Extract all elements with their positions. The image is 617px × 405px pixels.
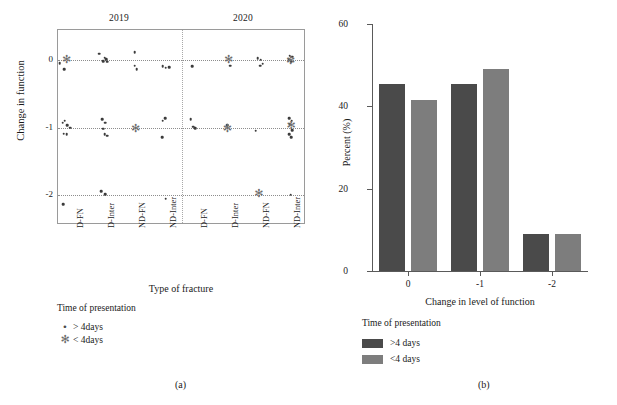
scatter-point-dot (100, 190, 103, 193)
scatter-point-dot (106, 60, 109, 63)
scatter-point-dot (101, 118, 104, 121)
bar-1-series-0 (451, 84, 477, 271)
scatter-point-dot (259, 64, 262, 67)
scatter-point-asterisk: ✻ (223, 123, 232, 132)
bar-0-series-1 (411, 100, 437, 271)
scatter-legend-item-0[interactable]: •> 4days (57, 320, 136, 333)
bar-y-tick-3: 60 (339, 19, 349, 29)
scatter-y-tick-1: -1 (46, 122, 54, 132)
bar-2-series-1 (555, 234, 581, 271)
scatter-point-dot (135, 68, 138, 71)
bar-y-tickmark-0 (367, 271, 372, 272)
scatter-x-tick-3: ND-Inter (169, 197, 178, 228)
scatter-x-tick-5: D-Inter (231, 203, 240, 228)
scatter-legend-label-1: < 4days (73, 335, 103, 345)
scatter-point-dot (102, 60, 105, 63)
panel-caption-a: (a) (175, 379, 186, 390)
bar-x-tick-1: -1 (476, 279, 484, 289)
scatter-year-divider (182, 30, 183, 223)
scatter-point-asterisk: ✻ (286, 56, 295, 65)
scatter-point-dot (63, 68, 66, 71)
scatter-point-asterisk: ✻ (62, 54, 71, 63)
scatter-legend-label-0: > 4days (73, 322, 103, 332)
bar-y-axis-title: Percent (%) (341, 73, 352, 213)
scatter-point-asterisk: ✻ (224, 54, 233, 63)
scatter-gridline-y-1 (58, 128, 304, 129)
scatter-point-dot (69, 126, 72, 129)
scatter-y-axis-ticks: 0-1-2 (28, 29, 53, 224)
scatter-point-dot (290, 136, 293, 139)
bar-y-tickmark-3 (367, 24, 372, 25)
bar-y-tick-0: 0 (343, 266, 348, 276)
bar-0-series-0 (379, 84, 405, 271)
bar-x-tickmark-2 (552, 271, 553, 276)
bar-2-series-0 (523, 234, 549, 271)
bar-x-tickmark-0 (408, 271, 409, 276)
scatter-point-dot (161, 136, 164, 139)
scatter-gridline-y-0 (58, 60, 304, 61)
bar-plot-area (372, 24, 588, 271)
scatter-point-asterisk: ✻ (287, 120, 296, 129)
bar-1-series-1 (483, 69, 509, 271)
scatter-point-asterisk: ✻ (254, 189, 263, 198)
bar-x-axis-title: Change in level of function (372, 296, 588, 307)
bar-legend-label-0: >4 days (390, 338, 420, 348)
group-label-2019: 2019 (109, 13, 129, 23)
scatter-x-tick-4: D-FN (200, 208, 209, 228)
bar-legend-item-1[interactable]: <4 days (362, 352, 441, 366)
scatter-y-tick-0: 0 (49, 54, 54, 64)
scatter-legend: Time of presentation •> 4days✻< 4days (57, 303, 136, 346)
bar-y-tickmark-1 (367, 189, 372, 190)
scatter-point-dot (106, 134, 109, 137)
bar-x-tick-2: -2 (548, 279, 556, 289)
scatter-x-axis-title: Type of fracture (57, 283, 305, 294)
scatter-legend-item-1[interactable]: ✻< 4days (57, 333, 136, 346)
bar-legend-title: Time of presentation (362, 318, 441, 328)
panel-caption-b: (b) (478, 379, 490, 390)
scatter-gridline-y-2 (58, 195, 304, 196)
scatter-y-axis-title: Change in function (15, 21, 26, 181)
scatter-point-dot (98, 52, 101, 55)
bar-legend-swatch-0 (362, 339, 383, 348)
asterisk-marker-icon: ✻ (57, 333, 73, 346)
dot-marker-icon: • (57, 322, 73, 332)
bar-legend-items: >4 days<4 days (362, 336, 441, 366)
scatter-point-dot (102, 128, 105, 131)
scatter-point-dot (194, 127, 197, 130)
bar-x-tick-0: 0 (406, 279, 411, 289)
scatter-x-tick-1: D-Inter (107, 203, 116, 228)
scatter-point-dot (65, 133, 68, 136)
scatter-point-dot (134, 51, 137, 54)
scatter-point-dot (189, 118, 192, 121)
scatter-point-dot (64, 119, 67, 122)
scatter-point-dot (254, 130, 257, 133)
scatter-point-dot (62, 203, 65, 206)
scatter-point-dot (261, 62, 264, 65)
scatter-x-tick-0: D-FN (76, 208, 85, 228)
bar-legend-item-0[interactable]: >4 days (362, 336, 441, 350)
bar-x-tickmark-1 (480, 271, 481, 276)
scatter-point-dot (104, 121, 107, 124)
scatter-point-dot (133, 64, 136, 67)
scatter-point-dot (165, 197, 168, 200)
scatter-x-tick-2: ND-FN (138, 202, 147, 228)
scatter-point-asterisk: ✻ (131, 123, 140, 132)
scatter-point-dot (259, 58, 262, 61)
scatter-x-tick-7: ND-Inter (293, 197, 302, 228)
scatter-point-dot (58, 62, 61, 65)
scatter-point-dot (161, 119, 164, 122)
scatter-legend-items: •> 4days✻< 4days (57, 320, 136, 346)
scatter-y-tick-2: -2 (46, 189, 54, 199)
scatter-point-dot (168, 66, 171, 69)
bar-legend-label-1: <4 days (390, 354, 420, 364)
bar-y-tickmark-2 (367, 106, 372, 107)
scatter-plot-area: ✻✻✻✻✻✻✻ (57, 29, 305, 224)
scatter-point-dot (289, 193, 292, 196)
figure-container: 2019 2020 ✻✻✻✻✻✻✻ 0-1-2 Change in functi… (0, 0, 617, 405)
scatter-legend-title: Time of presentation (57, 303, 136, 313)
scatter-point-dot (104, 193, 107, 196)
panel-b-bar: 0204060 0-1-2 Change in level of functio… (320, 0, 617, 405)
scatter-x-tick-6: ND-FN (262, 202, 271, 228)
panel-a-scatter: 2019 2020 ✻✻✻✻✻✻✻ 0-1-2 Change in functi… (0, 0, 320, 405)
bar-legend: Time of presentation >4 days<4 days (362, 318, 441, 368)
